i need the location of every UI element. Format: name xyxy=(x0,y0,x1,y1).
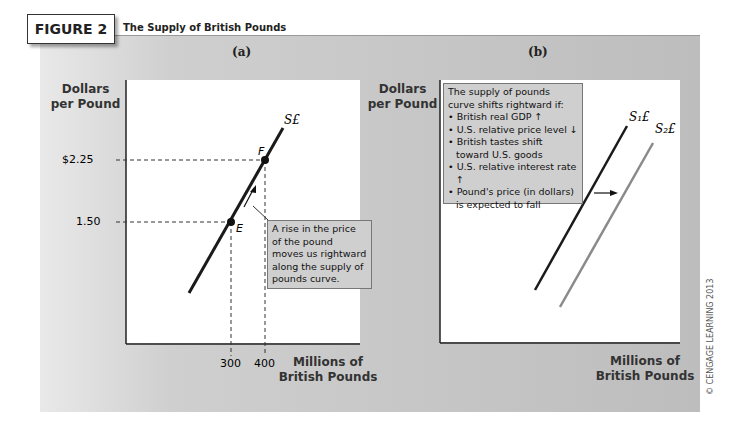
x-title-line-2: British Pounds xyxy=(590,369,700,384)
note-list: • British real GDP ↑ • U.S. relative pri… xyxy=(448,111,578,211)
note-item: • Pound's price (in dollars) is expected… xyxy=(448,186,578,211)
panel-b-x-axis-title: Millions of British Pounds xyxy=(590,354,700,384)
curve-label-s2: S₂£ xyxy=(655,122,676,136)
copyright-notice: © CENGAGE LEARNING 2013 xyxy=(706,279,715,395)
x-title-line-1: Millions of xyxy=(590,354,700,369)
curve-label-s1: S₁£ xyxy=(629,110,650,124)
note-item: • U.S. relative interest rate ↑ xyxy=(448,161,578,186)
note-item: • British tastes shift toward U.S. goods xyxy=(448,136,578,161)
note-item: • U.S. relative price level ↓ xyxy=(448,124,578,137)
figure-title: The Supply of British Pounds xyxy=(123,22,286,33)
note-title: The supply of pounds curve shifts rightw… xyxy=(448,86,578,111)
panel-b-note: The supply of pounds curve shifts rightw… xyxy=(443,83,583,204)
figure-tag: FIGURE 2 xyxy=(27,14,115,44)
note-item: • British real GDP ↑ xyxy=(448,111,578,124)
